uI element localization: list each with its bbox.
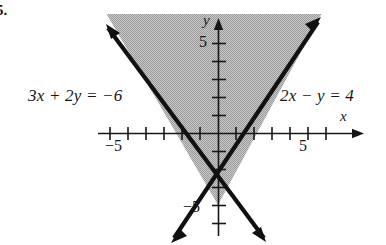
y-tick-label-neg5: −5 <box>183 198 200 216</box>
y-axis-label: y <box>203 12 210 29</box>
graph-figure: 5. <box>0 0 386 245</box>
left-equation-label: 3x + 2y = −6 <box>28 86 122 106</box>
x-tick-label-5: 5 <box>299 137 307 155</box>
right-equation-label: 2x − y = 4 <box>280 86 354 106</box>
x-axis-label: x <box>340 108 347 125</box>
y-tick-label-5: 5 <box>199 33 207 51</box>
x-tick-label-neg5: −5 <box>105 137 122 155</box>
